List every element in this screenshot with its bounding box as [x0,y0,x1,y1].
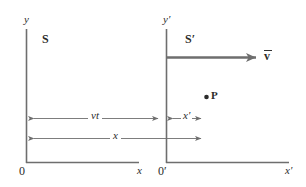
physics-diagram-canvas: S S′ y x 0 y′ x′ 0′ vt x x′ P v [0,0,306,187]
point-label-P: P [211,90,218,101]
axis-label-x-prime: x′ [285,165,292,176]
origin-label-O: 0 [19,165,25,177]
frame-label-S: S [42,33,49,45]
point-P-marker [204,95,209,100]
axis-label-x: x [137,165,142,176]
dimension-label-vt: vt [88,110,102,121]
origin-label-O-prime: 0′ [158,165,167,177]
axis-label-y-prime: y′ [163,14,170,25]
velocity-symbol: v [264,49,270,63]
dimension-label-x-prime: x′ [181,110,192,121]
frame-S-axes [26,29,139,163]
frame-label-S-prime: S′ [185,33,195,45]
dimension-label-x: x [110,130,121,141]
velocity-label: v [264,50,272,62]
axis-label-y: y [24,14,29,25]
diagram-vectors [0,0,306,187]
